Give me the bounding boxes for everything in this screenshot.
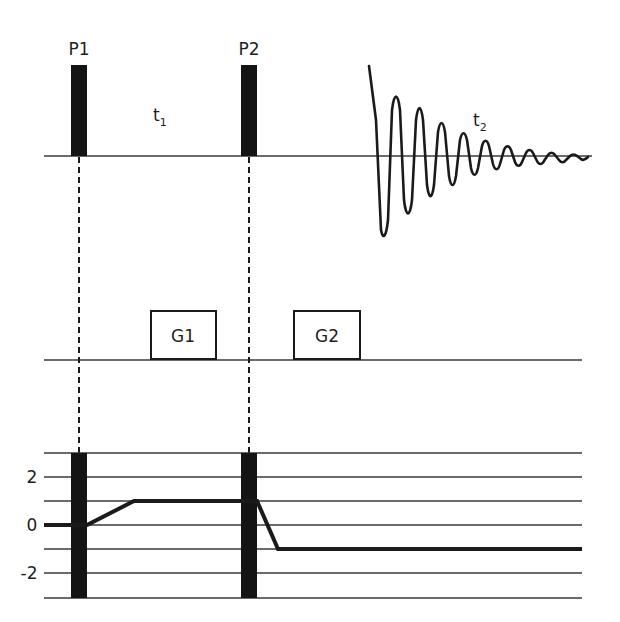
acquisition-t2-label: t2 (473, 110, 487, 134)
delay-t1-label: t1 (153, 105, 167, 129)
gradient-channel: G1 G2 (44, 311, 582, 360)
pulse-p1-label: P1 (68, 39, 89, 59)
coherence-pathway: 2 0 -2 (21, 453, 582, 598)
gradient-g1-label: G1 (171, 326, 195, 346)
pathway-pulse-p2 (241, 453, 257, 598)
pulse-p1 (71, 65, 87, 156)
y-tick-minus-2: -2 (21, 563, 38, 583)
rf-channel: P1 P2 t1 t2 (44, 39, 592, 236)
gradient-g2-label: G2 (315, 326, 339, 346)
fid-signal (369, 66, 588, 236)
y-tick-0: 0 (27, 515, 38, 535)
pulse-p2 (241, 65, 257, 156)
pulse-p2-label: P2 (238, 39, 259, 59)
y-tick-2: 2 (27, 467, 38, 487)
pulse-sequence-diagram: P1 P2 t1 t2 G1 G2 2 0 -2 (0, 0, 620, 622)
